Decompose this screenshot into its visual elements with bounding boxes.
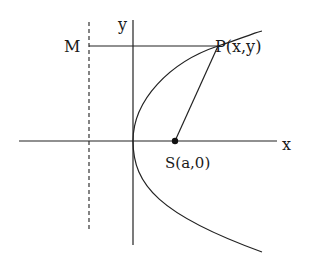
ps-line [175, 46, 218, 141]
s-label: S(a,0) [165, 154, 210, 172]
y-axis-label: y [117, 15, 127, 34]
m-label: M [64, 37, 80, 56]
focus-point [172, 138, 178, 144]
parabola-diagram: y x M P(x,y) S(a,0) [0, 0, 311, 267]
p-label: P(x,y) [215, 37, 261, 56]
x-axis-label: x [282, 135, 291, 154]
